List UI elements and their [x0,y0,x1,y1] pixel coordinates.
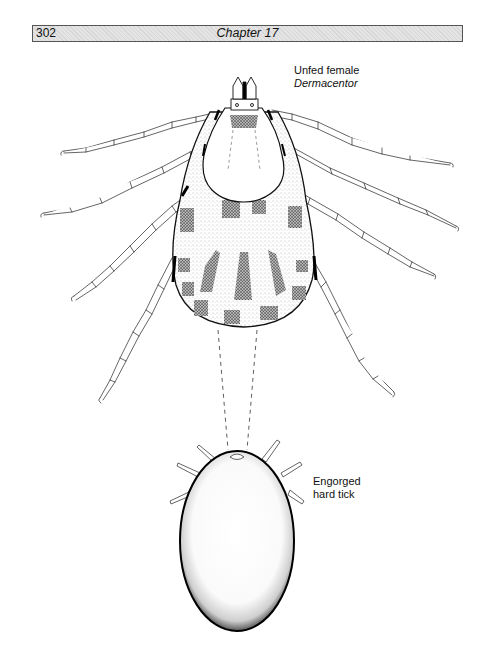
projection-lines [218,330,257,450]
capitulum [231,77,258,110]
label-line-genus: Dermacentor [294,77,359,90]
unfed-female-label: Unfed female Dermacentor [294,64,359,90]
engorged-tick-label: Engorged hard tick [313,475,361,501]
leg-right-4 [308,258,395,397]
label-line: hard tick [313,488,361,501]
engorged-tick [170,440,304,631]
tick-illustration [0,0,479,653]
label-line: Unfed female [294,64,359,77]
label-line: Engorged [313,475,361,488]
leg-left-4 [99,258,177,403]
